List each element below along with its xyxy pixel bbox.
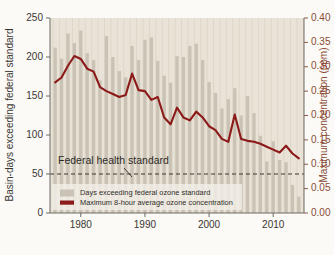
right-tick-label-0.35: 0.35 (311, 36, 331, 47)
left-axis-title: Basin-days exceeding federal standard (4, 29, 15, 202)
x-tick-label-1980: 1980 (70, 219, 93, 230)
left-tick-label-150: 150 (26, 90, 43, 101)
ozone-trend-chart: 050100150200250 0.000.050.100.150.200.25… (0, 0, 334, 255)
x-tick-label-1990: 1990 (134, 219, 157, 230)
left-tick-label-200: 200 (26, 51, 43, 62)
x-tick-label-2000: 2000 (198, 219, 221, 230)
right-tick-label-0.40: 0.40 (311, 12, 331, 23)
bar-2011 (278, 160, 281, 213)
bar-2013 (291, 185, 294, 213)
right-tick-label-0.05: 0.05 (311, 182, 331, 193)
bar-2009 (265, 162, 268, 213)
federal-standard-label: Federal health standard (58, 154, 169, 166)
left-tick-label-50: 50 (32, 168, 44, 179)
chart-canvas: 050100150200250 0.000.050.100.150.200.25… (0, 0, 334, 255)
bar-2014 (297, 197, 300, 213)
legend-swatch-bar-icon (60, 190, 74, 197)
bar-2012 (284, 162, 287, 213)
bar-2010 (272, 141, 275, 213)
bar-2007 (252, 113, 255, 213)
legend-label-max-8hr: Maximum 8-hour average ozone concentrati… (80, 198, 233, 207)
chart-legend: Days exceeding federal ozone standard Ma… (52, 184, 242, 210)
legend-label-days-exceeding: Days exceeding federal ozone standard (80, 188, 210, 197)
x-tick-label-2010: 2010 (262, 219, 285, 230)
left-tick-label-250: 250 (26, 12, 43, 23)
left-tick-label-100: 100 (26, 129, 43, 140)
right-axis-title: Maximum concentration (ppm) (318, 47, 329, 182)
legend-swatch-line-icon (60, 201, 74, 205)
right-tick-label-0.00: 0.00 (311, 207, 331, 218)
bar-2006 (246, 96, 249, 213)
left-tick-label-0: 0 (37, 207, 43, 218)
